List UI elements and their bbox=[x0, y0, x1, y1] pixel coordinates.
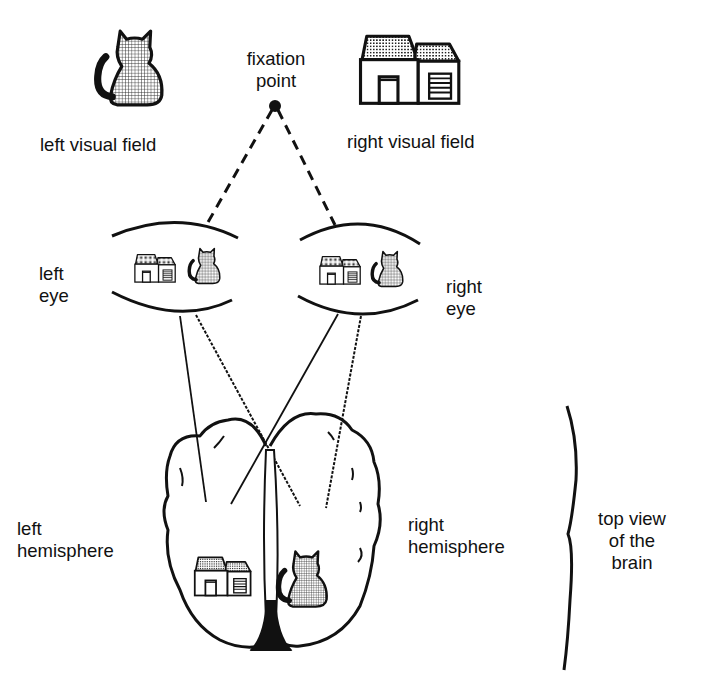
right-visual-field-label: right visual field bbox=[347, 131, 475, 153]
brace-label-line-1: top view bbox=[580, 508, 684, 530]
left-hemisphere-label-line-2: hemisphere bbox=[17, 540, 114, 562]
brace-label-line-2: of the bbox=[580, 530, 684, 552]
brace-label-line-3: brain bbox=[580, 552, 684, 574]
left-eye-house-icon bbox=[135, 255, 175, 283]
left-hemisphere-label-line-1: left bbox=[17, 518, 114, 540]
right-eye-house-icon bbox=[320, 257, 360, 285]
right-hemisphere-label-line-2: hemisphere bbox=[408, 536, 505, 558]
fixation-lines bbox=[207, 110, 335, 225]
right-eye-label-line-2: eye bbox=[446, 298, 482, 320]
brace bbox=[564, 406, 576, 670]
left-hemisphere-label: left hemisphere bbox=[17, 518, 114, 562]
right-hemisphere-label: right hemisphere bbox=[408, 514, 505, 558]
left-hemisphere-house-icon bbox=[195, 557, 251, 595]
right-hemisphere-label-line-1: right bbox=[408, 514, 505, 536]
left-eye-label-line-1: left bbox=[39, 263, 69, 285]
right-eye-label-line-1: right bbox=[446, 276, 482, 298]
left-eye-cat-icon bbox=[189, 249, 220, 284]
right-eye-cat-icon bbox=[372, 252, 403, 287]
left-field-cat-icon bbox=[98, 31, 162, 105]
left-eye-label-line-2: eye bbox=[39, 285, 69, 307]
top-view-of-brain-label: top view of the brain bbox=[580, 508, 684, 574]
fixation-label-line-1: fixation bbox=[236, 48, 316, 70]
right-eye-label: right eye bbox=[446, 276, 482, 320]
fissure-shadow bbox=[250, 600, 292, 650]
fixation-point-label: fixation point bbox=[236, 48, 316, 92]
visual-pathway-diagram bbox=[0, 0, 702, 693]
left-visual-field-label: left visual field bbox=[40, 134, 156, 156]
right-field-house-icon bbox=[361, 36, 459, 103]
left-eye-label: left eye bbox=[39, 263, 69, 307]
right-hemisphere-cat-icon bbox=[278, 551, 326, 606]
fixation-label-line-2: point bbox=[236, 70, 316, 92]
